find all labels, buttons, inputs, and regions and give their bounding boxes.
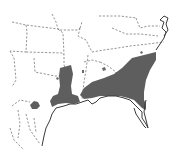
range-dot-3: [102, 67, 106, 71]
range-texas-patch: [30, 101, 40, 109]
range-dot-2: [82, 70, 84, 73]
range-dot-1: [56, 77, 59, 80]
map-canvas: [0, 0, 178, 159]
range-dot-4: [140, 51, 143, 54]
range-west: [50, 65, 80, 107]
range-map: [0, 0, 178, 159]
range-east: [80, 52, 156, 110]
